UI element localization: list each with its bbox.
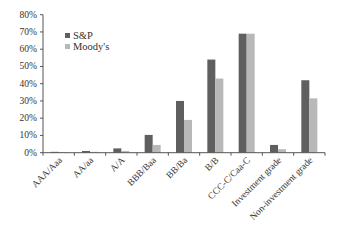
bar-moodys xyxy=(247,34,255,153)
y-tick-label: 10% xyxy=(20,130,38,140)
bar-sp xyxy=(113,148,121,152)
y-tick-label: 40% xyxy=(20,79,38,89)
bar-sp xyxy=(176,101,184,153)
x-tick-label: AA/aa xyxy=(71,154,96,179)
bar-moodys xyxy=(184,120,192,153)
y-tick-label: 20% xyxy=(20,113,38,123)
bar-moodys xyxy=(309,98,317,152)
x-tick-label: Non-investment grade xyxy=(248,155,315,222)
x-tick-label: BB/Ba xyxy=(164,154,190,180)
x-axis: AAA/AaaAA/aaA/ABBB/BaaBB/BaB/BCCC-C/Caa-… xyxy=(30,153,325,222)
legend: S&P Moody's xyxy=(65,30,109,52)
y-tick-label: 70% xyxy=(20,27,38,37)
bar-sp xyxy=(270,145,278,153)
bar-sp xyxy=(239,34,247,153)
legend-swatch-sp xyxy=(65,33,70,38)
y-tick-label: 0% xyxy=(24,148,37,158)
x-tick-label: BBB/Baa xyxy=(125,154,158,187)
y-tick-label: 60% xyxy=(20,44,38,54)
legend-label-moodys: Moody's xyxy=(73,41,109,52)
bar-chart: 0%10%20%30%40%50%60%70%80% AAA/AaaAA/aaA… xyxy=(0,0,344,241)
y-tick-label: 50% xyxy=(20,61,38,71)
bar-moodys xyxy=(215,79,223,153)
x-tick-label: B/B xyxy=(203,155,221,173)
y-tick-label: 80% xyxy=(20,10,38,20)
legend-swatch-moodys xyxy=(65,44,70,49)
bar-sp xyxy=(207,60,215,153)
y-tick-label: 30% xyxy=(20,96,38,106)
x-tick-label: A/A xyxy=(108,155,127,174)
bar-sp xyxy=(301,80,309,152)
bar-sp xyxy=(145,135,153,153)
bar-moodys xyxy=(278,149,286,152)
bar-moodys xyxy=(153,145,161,153)
legend-label-sp: S&P xyxy=(73,30,93,41)
y-axis: 0%10%20%30%40%50%60%70%80% xyxy=(20,10,43,158)
x-tick-label: AAA/Aaa xyxy=(30,154,65,189)
